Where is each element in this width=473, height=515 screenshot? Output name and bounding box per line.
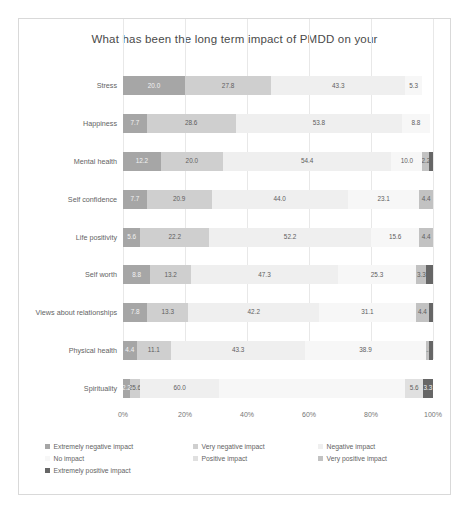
chart-bar-row: Self worth8.813.247.325.33.3 (19, 256, 452, 294)
bar-value-label: 13.3 (162, 309, 174, 315)
legend-item[interactable]: Very negative impact (193, 443, 318, 450)
bar-segment[interactable]: 11.1 (137, 341, 171, 360)
bar-segment[interactable]: 23.1 (348, 190, 420, 209)
legend-label: Negative impact (327, 443, 376, 450)
legend-item[interactable]: Very positive impact (318, 455, 438, 462)
bar-value-label: 23.1 (377, 196, 389, 202)
bar-value-label: 20.0 (186, 158, 198, 164)
chart-legend: Extremely negative impactVery negative i… (45, 443, 445, 479)
bar-segment[interactable]: 43.3 (171, 341, 305, 360)
bar-value-label: 31.1 (361, 309, 373, 315)
bar-segment[interactable]: 2.2 (123, 379, 130, 398)
bar-segment[interactable] (219, 379, 405, 398)
bar-segment[interactable]: 8.8 (123, 265, 150, 284)
x-axis-tick: 0% (118, 411, 128, 418)
bar-segment[interactable]: 20.9 (147, 190, 212, 209)
bar-segment[interactable]: 22.2 (140, 228, 209, 247)
chart-bar-row: Self confidence7.720.944.023.14.4 (19, 180, 452, 218)
legend-item[interactable]: Negative impact (318, 443, 438, 450)
bar-segment[interactable]: 13.2 (150, 265, 191, 284)
stacked-bar: 20.027.843.35.3 (123, 76, 433, 95)
stacked-bar: 5.622.252.215.64.4 (123, 228, 433, 247)
bar-segment[interactable]: 25.6 (130, 379, 140, 398)
category-label: Physical health (19, 346, 123, 355)
chart-bar-row: Life positivity5.622.252.215.64.4 (19, 218, 452, 256)
bar-segment[interactable]: 8.8 (402, 114, 429, 133)
bar-track: 7.813.342.231.14.4 (123, 303, 433, 322)
bar-value-label: 2.2 (422, 158, 429, 164)
bar-value-label: 8.8 (411, 120, 420, 126)
bar-segment[interactable] (429, 152, 433, 171)
bar-value-label: 5.6 (127, 234, 136, 240)
bar-value-label: 43.3 (232, 347, 244, 353)
legend-item[interactable]: Extremely negative impact (45, 443, 193, 450)
legend-item[interactable]: No impact (45, 455, 193, 462)
category-label: Spirituality (19, 384, 123, 393)
legend-label: Extremely positive impact (54, 467, 131, 474)
legend-row: No impactPositive impactVery positive im… (45, 455, 445, 462)
bar-segment[interactable]: 3.3 (423, 379, 433, 398)
bar-value-label: 54.4 (301, 158, 313, 164)
bar-segment[interactable]: 60.0 (140, 379, 219, 398)
bar-segment[interactable]: 4.4 (419, 190, 433, 209)
legend-label: Extremely negative impact (54, 443, 134, 450)
bar-segment[interactable]: 5.6 (123, 228, 140, 247)
bar-segment[interactable]: 13.3 (147, 303, 188, 322)
bar-segment[interactable]: 5.3 (405, 76, 421, 95)
bar-segment[interactable]: 20.0 (161, 152, 223, 171)
chart-title: What has been the long term impact of PM… (19, 33, 450, 45)
category-label: Self worth (19, 270, 123, 279)
legend-item[interactable]: Extremely positive impact (45, 467, 193, 474)
legend-label: Positive impact (202, 455, 248, 462)
legend-item[interactable]: Positive impact (193, 455, 318, 462)
category-label: Views about relationships (19, 308, 123, 317)
stacked-bar: 7.728.653.88.8 (123, 114, 433, 133)
bar-segment[interactable]: 53.8 (236, 114, 403, 133)
category-label: Life positivity (19, 233, 123, 242)
chart-bar-row: Views about relationships7.813.342.231.1… (19, 294, 452, 332)
chart-bar-row: Mental health12.220.054.410.02.2 (19, 143, 452, 181)
bar-value-label: 52.2 (284, 234, 296, 240)
bar-segment[interactable]: 4.4 (123, 341, 137, 360)
bar-segment[interactable]: 4.4 (419, 228, 433, 247)
bar-value-label: 11.1 (148, 347, 160, 353)
x-axis-tick: 80% (364, 411, 378, 418)
bar-segment[interactable] (429, 303, 433, 322)
bar-segment[interactable]: 28.6 (147, 114, 236, 133)
bar-value-label: 7.7 (130, 120, 139, 126)
bar-segment[interactable]: 42.2 (188, 303, 319, 322)
category-label: Mental health (19, 157, 123, 166)
bar-segment[interactable]: 44.0 (212, 190, 348, 209)
bar-value-label: 27.8 (222, 83, 234, 89)
bar-value-label: 43.3 (332, 83, 344, 89)
bar-value-label: 28.6 (185, 120, 197, 126)
bar-value-label: 4.4 (418, 309, 427, 315)
stacked-bar: 7.813.342.231.14.4 (123, 303, 433, 322)
bar-segment[interactable]: 5.6 (405, 379, 422, 398)
stacked-bar: 4.411.143.338.91.1 (123, 341, 433, 360)
bar-segment[interactable]: 10.0 (391, 152, 422, 171)
bar-segment[interactable]: 4.4 (416, 303, 430, 322)
bar-segment[interactable]: 54.4 (223, 152, 392, 171)
legend-swatch-icon (45, 444, 50, 449)
bar-segment[interactable]: 38.9 (305, 341, 426, 360)
bar-track: 4.411.143.338.91.1 (123, 341, 433, 360)
bar-segment[interactable]: 47.3 (191, 265, 338, 284)
bar-segment[interactable]: 20.0 (123, 76, 185, 95)
legend-row: Extremely positive impact (45, 467, 445, 474)
bar-segment[interactable]: 2.2 (422, 152, 429, 171)
bar-segment[interactable]: 15.6 (371, 228, 419, 247)
bar-segment[interactable]: 3.3 (416, 265, 426, 284)
bar-segment[interactable]: 7.8 (123, 303, 147, 322)
bar-segment[interactable]: 27.8 (185, 76, 271, 95)
bar-segment[interactable] (426, 265, 433, 284)
bar-segment[interactable]: 52.2 (209, 228, 371, 247)
bar-segment[interactable]: 31.1 (319, 303, 415, 322)
bar-segment[interactable]: 7.7 (123, 114, 147, 133)
bar-segment[interactable]: 12.2 (123, 152, 161, 171)
bar-segment[interactable]: 7.7 (123, 190, 147, 209)
bar-segment[interactable] (429, 341, 433, 360)
bar-segment[interactable]: 25.3 (338, 265, 416, 284)
bar-segment[interactable]: 43.3 (271, 76, 405, 95)
bar-value-label: 7.7 (130, 196, 139, 202)
